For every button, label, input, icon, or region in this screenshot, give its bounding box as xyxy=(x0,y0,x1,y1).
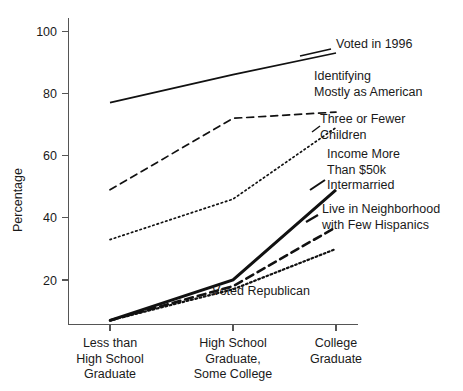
x-category-label-0: Graduate xyxy=(84,367,136,381)
series-labels-group: Voted in 1996IdentifyingMostly as Americ… xyxy=(212,37,440,298)
leader-intermarried xyxy=(310,180,325,190)
x-category-label-1: Some College xyxy=(194,367,273,381)
series-label-2: Children xyxy=(320,128,367,142)
x-category-label-2: Graduate xyxy=(310,352,362,366)
y-tick-label-20: 20 xyxy=(43,274,57,288)
y-tick-label-40: 40 xyxy=(43,211,57,225)
y-tick-label-60: 60 xyxy=(43,149,57,163)
series-line-4 xyxy=(110,227,336,320)
series-label-0: Voted in 1996 xyxy=(336,37,413,51)
series-line-3 xyxy=(110,190,336,321)
x-category-label-1: Graduate, xyxy=(205,352,261,366)
x-axis: Less thanHigh SchoolGraduateHigh SchoolG… xyxy=(69,325,363,382)
chart-container: 20406080100 Percentage Less thanHigh Sch… xyxy=(0,0,463,391)
series-label-1: Identifying xyxy=(314,69,371,83)
series-line-0 xyxy=(110,53,336,103)
x-category-label-0: High School xyxy=(76,352,143,366)
y-axis-title: Percentage xyxy=(11,168,25,232)
education-assimilation-line-chart: 20406080100 Percentage Less thanHigh Sch… xyxy=(0,0,463,391)
x-category-label-0: Less than xyxy=(83,336,137,350)
series-label-1: Mostly as American xyxy=(314,85,422,99)
series-label-4: with Few Hispanics xyxy=(321,218,429,232)
y-tick-label-100: 100 xyxy=(36,25,57,39)
y-axis: 20406080100 Percentage xyxy=(11,18,69,325)
x-axis-ticks xyxy=(110,325,336,332)
series-label-3: Than $50k xyxy=(327,163,387,177)
series-line-2 xyxy=(110,128,336,240)
x-category-label-2: College xyxy=(315,336,357,350)
series-label-4: Live in Neighborhood xyxy=(322,202,440,216)
x-axis-category-labels: Less thanHigh SchoolGraduateHigh SchoolG… xyxy=(76,336,362,381)
y-tick-label-80: 80 xyxy=(43,87,57,101)
series-label-3: Income More xyxy=(327,147,400,161)
x-category-label-1: High School xyxy=(199,336,266,350)
leader-three-or-fewer-children xyxy=(312,126,320,132)
series-label-5: Voted Republican xyxy=(212,284,310,298)
series-lines-group xyxy=(110,53,336,320)
y-axis-ticks: 20406080100 xyxy=(36,25,68,288)
series-label-2: Three or Fewer xyxy=(320,112,405,126)
series-label-3: Intermarried xyxy=(327,178,394,192)
